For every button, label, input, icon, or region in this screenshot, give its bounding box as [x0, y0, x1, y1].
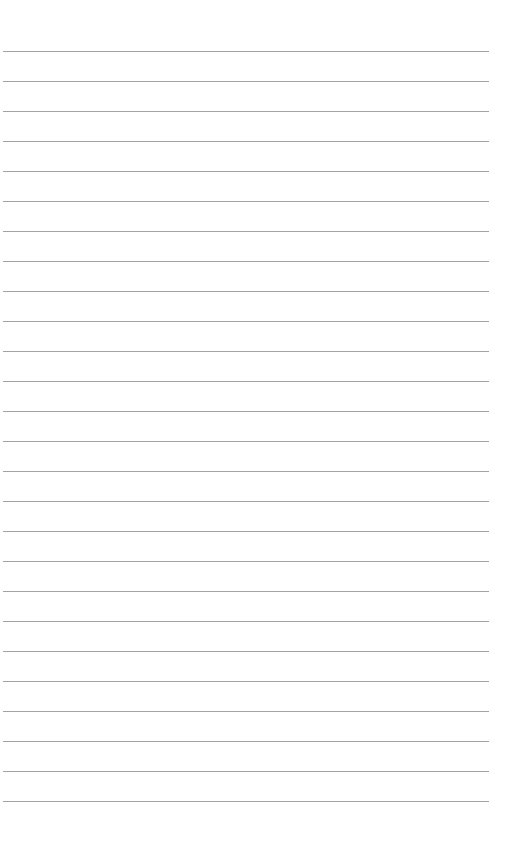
ruled-line	[3, 591, 489, 592]
ruled-line	[3, 381, 489, 382]
ruled-line	[3, 291, 489, 292]
ruled-line	[3, 201, 489, 202]
ruled-line	[3, 471, 489, 472]
ruled-line	[3, 711, 489, 712]
ruled-line	[3, 411, 489, 412]
ruled-line	[3, 351, 489, 352]
ruled-line	[3, 111, 489, 112]
ruled-line	[3, 651, 489, 652]
ruled-line	[3, 441, 489, 442]
ruled-line	[3, 501, 489, 502]
ruled-line	[3, 621, 489, 622]
ruled-line	[3, 531, 489, 532]
ruled-line	[3, 81, 489, 82]
ruled-line	[3, 261, 489, 262]
ruled-line	[3, 51, 489, 52]
ruled-line	[3, 231, 489, 232]
ruled-line	[3, 171, 489, 172]
ruled-line	[3, 681, 489, 682]
ruled-line	[3, 801, 489, 802]
ruled-line	[3, 321, 489, 322]
ruled-line	[3, 141, 489, 142]
lined-paper-page	[0, 0, 511, 850]
ruled-line	[3, 561, 489, 562]
ruled-line	[3, 771, 489, 772]
ruled-line	[3, 741, 489, 742]
